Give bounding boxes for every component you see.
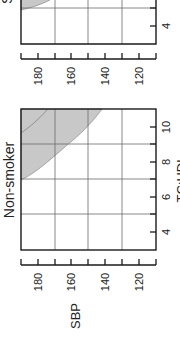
smoker-panel: 4 S 180 160 140 120 (0, 0, 172, 85)
ratio-tick-6: 6 (160, 194, 172, 200)
sbp-tick-140: 140 (99, 273, 111, 291)
smoker-sbp-tick-180: 180 (32, 67, 44, 85)
non-smoker-panel-title: Non-smoker (1, 142, 17, 219)
smoker-sbp-tick-160: 160 (65, 67, 77, 85)
risk-chart: 4 S 180 160 140 120 (0, 0, 180, 339)
ratio-tick-8: 8 (160, 159, 172, 165)
sbp-tick-120: 120 (133, 273, 145, 291)
ratio-tick-4: 4 (160, 229, 172, 235)
sbp-tick-160: 160 (65, 273, 77, 291)
smoker-panel-title: S (0, 0, 15, 4)
y-axis-label: TC:HDL (174, 156, 180, 203)
x-axis-label: SBP (68, 303, 83, 329)
smoker-sbp-tick-140: 140 (99, 67, 111, 85)
non-smoker-panel: 4 6 8 10 TC:HDL Non-smoker 180 160 140 1… (1, 109, 180, 329)
smoker-shaded-region (21, 0, 60, 10)
non-smoker-shaded-region (21, 109, 102, 180)
sbp-tick-180: 180 (32, 273, 44, 291)
smoker-sbp-tick-120: 120 (133, 67, 145, 85)
smoker-ratio-tick-4: 4 (160, 23, 172, 29)
ratio-tick-10: 10 (160, 121, 172, 133)
